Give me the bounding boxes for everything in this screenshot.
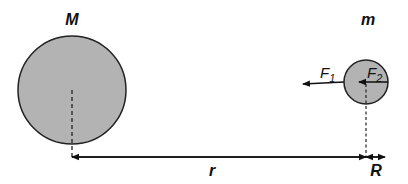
distance-label: r (209, 162, 216, 179)
big-mass-label: M (65, 11, 79, 28)
radius-label: R (370, 162, 382, 179)
big-mass: M (18, 11, 126, 144)
force1-arrow (303, 82, 344, 84)
force1-label: F1 (320, 64, 335, 84)
gravitation-diagram: M m F1 F2 r R (0, 0, 408, 184)
small-mass-label: m (361, 11, 375, 28)
